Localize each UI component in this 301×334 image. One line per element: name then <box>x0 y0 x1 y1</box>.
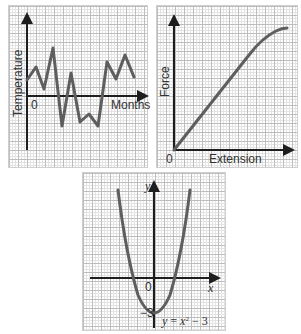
force-curve <box>174 28 287 150</box>
temperature-chart: Temperature 0 Months <box>11 18 150 150</box>
origin-label: 0 <box>31 98 38 112</box>
equation-label: y = x2 − 3 <box>161 314 208 328</box>
x-axis-label: x <box>207 281 214 295</box>
y-intercept-label: −3 <box>140 306 154 320</box>
temperature-line <box>27 48 134 126</box>
y-axis-label: Temperature <box>11 49 25 117</box>
y-axis-label: y <box>144 179 151 193</box>
origin-label: 0 <box>145 280 152 294</box>
parabola-chart: y x 0 −3 y = x2 − 3 <box>90 179 215 328</box>
y-axis-label: Force <box>158 66 172 97</box>
x-axis-label: Months <box>111 98 150 112</box>
force-extension-chart: Force 0 Extension <box>158 20 289 166</box>
origin-label: 0 <box>166 152 173 166</box>
x-axis-label: Extension <box>209 152 262 166</box>
